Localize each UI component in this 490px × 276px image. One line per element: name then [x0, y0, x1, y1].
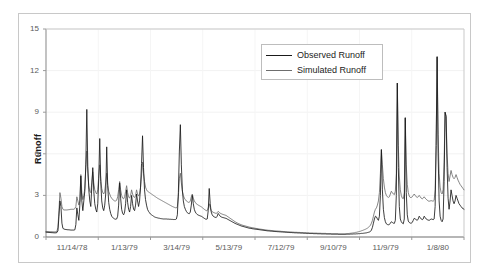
- legend-item-simulated: Simulated Runoff: [266, 63, 366, 77]
- x-tick-label-7: 1/8/80: [411, 243, 465, 252]
- y-tick-label-3: 3: [17, 190, 39, 199]
- figure-container: Runoff 03691215 11/14/781/13/793/14/795/…: [0, 0, 490, 276]
- gridlines: [46, 29, 464, 237]
- legend-label-observed: Observed Runoff: [297, 50, 365, 60]
- y-tick-label-6: 6: [17, 149, 39, 158]
- x-tick-label-3: 5/13/79: [202, 243, 256, 252]
- y-tick-label-15: 15: [17, 24, 39, 33]
- legend-item-observed: Observed Runoff: [266, 48, 365, 62]
- x-tick-label-0: 11/14/78: [45, 243, 99, 252]
- x-tick-label-1: 1/13/79: [97, 243, 151, 252]
- x-tick-label-6: 11/9/79: [359, 243, 413, 252]
- y-tick-label-9: 9: [17, 107, 39, 116]
- legend-label-simulated: Simulated Runoff: [297, 65, 366, 75]
- x-tick-label-4: 7/12/79: [254, 243, 308, 252]
- plot-area-wrapper: Runoff 03691215 11/14/781/13/793/14/795/…: [0, 0, 490, 276]
- runoff-hydrograph-chart: [0, 0, 490, 276]
- y-tick-label-0: 0: [17, 232, 39, 241]
- x-tick-label-5: 9/10/79: [306, 243, 360, 252]
- x-tick-label-2: 3/14/79: [150, 243, 204, 252]
- chart-legend: Observed Runoff Simulated Runoff: [261, 44, 383, 80]
- legend-swatch-observed: [266, 55, 292, 56]
- y-tick-label-12: 12: [17, 66, 39, 75]
- legend-swatch-simulated: [266, 70, 292, 71]
- y-axis-title: Runoff: [20, 108, 34, 168]
